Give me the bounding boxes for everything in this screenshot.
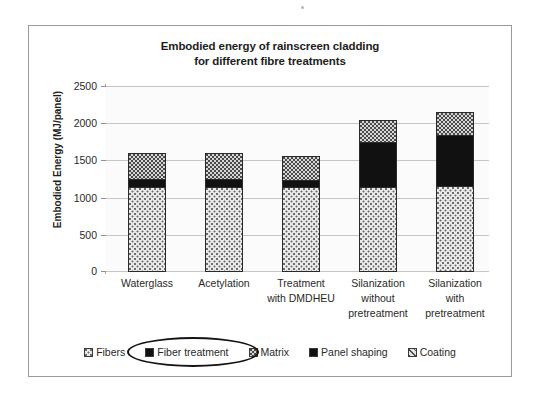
- y-tick-label-2000: 2000: [74, 117, 97, 129]
- y-tick-label-0: 0: [91, 265, 97, 277]
- y-tick-label-2500: 2500: [74, 80, 97, 92]
- bar-segment-matrix: [437, 113, 473, 136]
- legend-item-fibers[interactable]: Fibers: [84, 346, 125, 358]
- x-label-line: with: [413, 291, 497, 306]
- legend-label-coating: Coating: [420, 346, 456, 358]
- bar-segment-fibers: [206, 188, 242, 271]
- x-label-silanization-without-pretreatment: Silanization without pretreatment: [336, 276, 420, 321]
- bar-segment-fibers: [437, 187, 473, 271]
- bar-segment-fiber-treatment: [129, 180, 165, 188]
- x-axis-labels: Waterglass Acetylation Treatment with DM…: [105, 276, 489, 338]
- bar-segment-fibers: [129, 188, 165, 271]
- bar-segment-fibers: [360, 188, 396, 271]
- legend-swatch-coating-icon: [408, 348, 417, 357]
- y-tick-mark-0: [101, 271, 106, 272]
- bar-silanization-with-pretreatment[interactable]: [436, 112, 474, 272]
- bar-segment-matrix: [360, 121, 396, 143]
- bar-segment-fiber-treatment: [283, 181, 319, 188]
- chart-title: Embodied energy of rainscreen cladding f…: [29, 39, 511, 69]
- legend-label-fiber-treatment: Fiber treatment: [157, 346, 228, 358]
- x-label-line: pretreatment: [413, 306, 497, 321]
- legend-swatch-fiber-treatment-icon: [145, 348, 154, 357]
- legend-item-fiber-treatment[interactable]: Fiber treatment: [145, 346, 228, 358]
- x-label-line: pretreatment: [336, 306, 420, 321]
- bar-waterglass[interactable]: [128, 153, 166, 272]
- y-tick-label-500: 500: [79, 229, 97, 241]
- x-label-silanization-with-pretreatment: Silanization with pretreatment: [413, 276, 497, 321]
- legend-swatch-panel-shaping-icon: [309, 348, 318, 357]
- chart-title-line-2: for different fibre treatments: [29, 54, 511, 69]
- y-tick-mark-2500: [101, 86, 106, 87]
- chart-title-line-1: Embodied energy of rainscreen cladding: [29, 39, 511, 54]
- bar-acetylation[interactable]: [205, 153, 243, 272]
- legend-swatch-matrix-icon: [249, 348, 258, 357]
- y-axis-title: Embodied Energy (MJ/panel): [52, 70, 63, 250]
- x-label-line: Silanization: [413, 276, 497, 291]
- chart-figure-frame: Embodied energy of rainscreen cladding f…: [28, 25, 512, 377]
- plot-area: 2500 2000 1500 1000 500 0: [105, 86, 489, 272]
- x-label-treatment-with-dmdheu: Treatment with DMDHEU: [259, 276, 343, 306]
- bar-segment-fiber-treatment: [206, 180, 242, 188]
- y-tick-mark-1500: [101, 160, 106, 161]
- y-tick-mark-2000: [101, 123, 106, 124]
- y-tick-mark-1000: [101, 198, 106, 199]
- x-label-line: Acetylation: [182, 276, 266, 291]
- legend-label-matrix: Matrix: [261, 346, 290, 358]
- bar-segment-matrix: [206, 154, 242, 180]
- scan-artifact-speck: [301, 6, 304, 9]
- legend-label-fibers: Fibers: [96, 346, 125, 358]
- legend-label-panel-shaping: Panel shaping: [321, 346, 388, 358]
- bar-segment-fibers: [283, 188, 319, 271]
- bar-segment-fiber-treatment: [360, 143, 396, 188]
- chart-legend: Fibers Fiber treatment Matrix Panel shap…: [29, 346, 511, 358]
- legend-item-panel-shaping[interactable]: Panel shaping: [309, 346, 388, 358]
- x-label-line: Silanization: [336, 276, 420, 291]
- bar-silanization-without-pretreatment[interactable]: [359, 120, 397, 272]
- bar-segment-matrix: [283, 157, 319, 181]
- legend-item-coating[interactable]: Coating: [408, 346, 456, 358]
- bar-segment-fiber-treatment: [437, 136, 473, 187]
- gridline-2500: 2500: [105, 86, 489, 87]
- legend-swatch-fibers-icon: [84, 348, 93, 357]
- x-label-line: with DMDHEU: [259, 291, 343, 306]
- y-tick-mark-500: [101, 235, 106, 236]
- y-tick-label-1000: 1000: [74, 192, 97, 204]
- x-label-acetylation: Acetylation: [182, 276, 266, 291]
- x-label-waterglass: Waterglass: [105, 276, 189, 291]
- gridline-2000: 2000: [105, 123, 489, 124]
- bar-treatment-with-dmdheu[interactable]: [282, 156, 320, 272]
- x-label-line: without: [336, 291, 420, 306]
- x-label-line: Treatment: [259, 276, 343, 291]
- x-label-line: Waterglass: [105, 276, 189, 291]
- y-tick-label-1500: 1500: [74, 154, 97, 166]
- legend-item-matrix[interactable]: Matrix: [249, 346, 290, 358]
- bar-segment-matrix: [129, 154, 165, 180]
